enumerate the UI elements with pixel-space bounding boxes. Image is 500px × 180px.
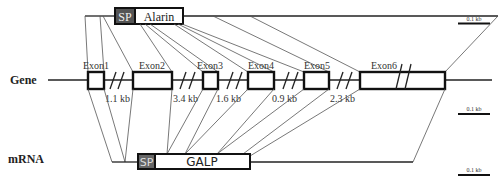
exon-3: Exon3 [197,60,223,89]
scale-bar-label: 0.1 kb [467,167,482,173]
scale-bar-label: 0.1 kb [467,16,482,22]
scale-bar-label: 0.1 kb [467,106,482,112]
galp-sp-label: SP [140,156,154,169]
exon-1: Exon1 [83,60,109,89]
exon-box [88,72,104,89]
exon-label: Exon5 [304,60,330,71]
exon-label: Exon6 [371,60,397,71]
exon-box [304,72,329,89]
intron-2-size: 3.4 kb [173,93,198,104]
intron-3-size: 1.6 kb [216,93,241,104]
exon-label: Exon2 [139,60,165,71]
mrna-row-label: mRNA [8,152,44,166]
alarin-label: Alarin [144,10,175,24]
intron-4-size: 0.9 kb [272,93,297,104]
scale-bar-middle: 0.1 kb [458,106,490,114]
exon-box [248,72,274,89]
gene-row-label: Gene [10,73,37,87]
exon-box [203,72,218,89]
exon-label: Exon4 [248,60,274,71]
exon-4: Exon4 [248,60,274,89]
scale-bar-bottom: 0.1 kb [458,167,490,175]
galp-label: GALP [186,155,217,169]
intron-1-size: 1.1 kb [105,93,130,104]
exon-label: Exon3 [197,60,223,71]
exon-label: Exon1 [83,60,109,71]
exon-5: Exon5 [304,60,330,89]
exon-6: Exon6 [360,60,445,89]
exon-2: Exon2 [133,60,172,89]
exon-box [360,72,445,89]
alarin-sp-label: SP [118,10,132,24]
alarin-row: SP Alarin [85,8,498,24]
galp-gene-structure-diagram: SP Alarin 0.1 kb Gene [0,0,500,180]
exon-box [133,72,172,89]
scale-bar-top: 0.1 kb [458,16,490,24]
gene-to-mrna-connectors [88,89,445,162]
